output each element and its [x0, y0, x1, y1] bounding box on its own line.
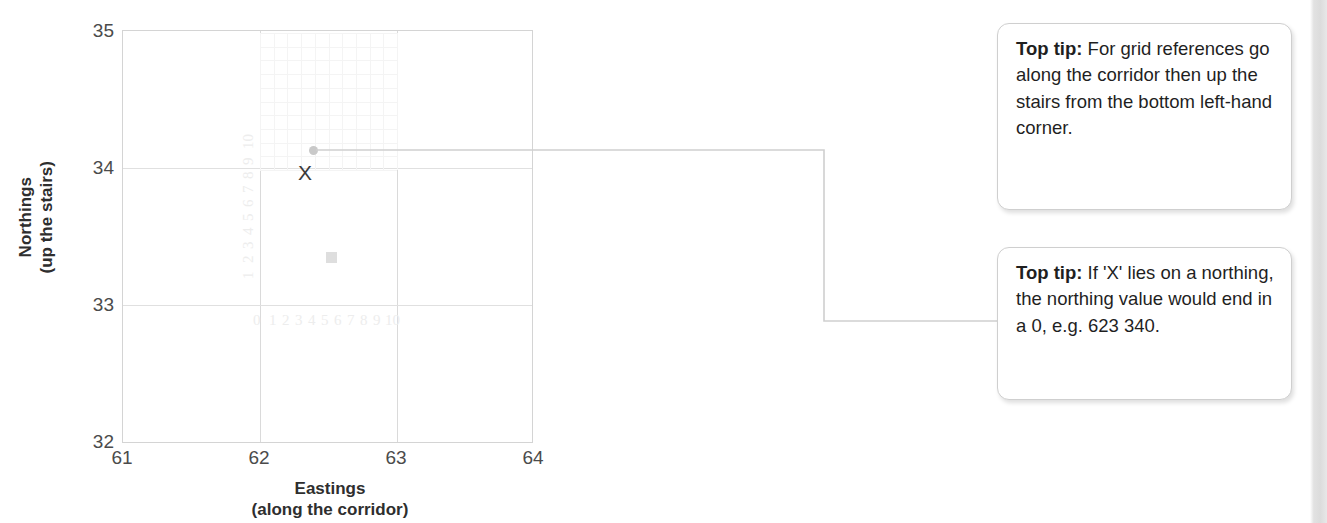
- x-axis-title-line2: (along the corridor): [180, 499, 480, 520]
- page-edge-strip: [1310, 0, 1327, 523]
- plot-area: 0 1 2 3 4 5 6 7 8 9 10 10 9 8 7 6 5 4 3 …: [122, 30, 533, 443]
- subgrid-y-label-8: 8: [241, 172, 256, 180]
- x-tick-61: 61: [92, 447, 152, 469]
- y-tick-35: 35: [74, 20, 114, 42]
- subgrid-y-label-4: 4: [241, 228, 256, 236]
- subgrid-x-label-2: 2: [282, 313, 290, 328]
- subgrid-x-label-10: 10: [385, 313, 400, 328]
- subgrid-tenths: [260, 33, 397, 170]
- subgrid-y-label-10: 10: [241, 134, 256, 149]
- subgrid-y-label-6: 6: [241, 200, 256, 208]
- x-tick-62: 62: [229, 447, 289, 469]
- top-tip-box-2: Top tip: If 'X' lies on a northing, the …: [997, 247, 1292, 400]
- y-axis-title: Northings (up the stairs): [15, 117, 58, 317]
- leader-dot: [309, 146, 318, 155]
- x-tick-63: 63: [366, 447, 426, 469]
- x-axis-title: Eastings (along the corridor): [180, 478, 480, 521]
- subgrid-y-label-7: 7: [241, 186, 256, 194]
- subgrid-x-label-0: 0: [253, 313, 261, 328]
- subgrid-y-label-1: 1: [241, 272, 256, 280]
- top-tip-2-lead: Top tip:: [1016, 262, 1082, 283]
- x-axis-title-line1: Eastings: [180, 478, 480, 499]
- top-tip-1-lead: Top tip:: [1016, 38, 1082, 59]
- subgrid-y-label-5: 5: [241, 214, 256, 222]
- subgrid-x-label-8: 8: [360, 313, 368, 328]
- y-tick-34: 34: [74, 157, 114, 179]
- y-axis-title-line1: Northings: [15, 117, 36, 317]
- subgrid-x-label-1: 1: [269, 313, 277, 328]
- subgrid-y-label-2: 2: [241, 256, 256, 264]
- subgrid-x-label-5: 5: [321, 313, 329, 328]
- diagram-page: 0 1 2 3 4 5 6 7 8 9 10 10 9 8 7 6 5 4 3 …: [0, 0, 1327, 523]
- x-tick-64: 64: [503, 447, 563, 469]
- subgrid-x-label-9: 9: [373, 313, 381, 328]
- top-tip-box-1: Top tip: For grid references go along th…: [997, 23, 1292, 210]
- grid-square-marker: [326, 252, 337, 263]
- subgrid-x-label-4: 4: [308, 313, 316, 328]
- subgrid-y-label-9: 9: [241, 158, 256, 166]
- subgrid-x-label-6: 6: [334, 313, 342, 328]
- y-axis-title-line2: (up the stairs): [36, 117, 57, 317]
- y-tick-33: 33: [74, 294, 114, 316]
- subgrid-x-label-3: 3: [295, 313, 303, 328]
- point-x-label: X: [298, 162, 312, 183]
- subgrid-y-label-3: 3: [241, 242, 256, 250]
- gridline-horizontal-33: [123, 305, 532, 306]
- subgrid-x-label-7: 7: [347, 313, 355, 328]
- grid-reference-chart: 0 1 2 3 4 5 6 7 8 9 10 10 9 8 7 6 5 4 3 …: [0, 0, 600, 523]
